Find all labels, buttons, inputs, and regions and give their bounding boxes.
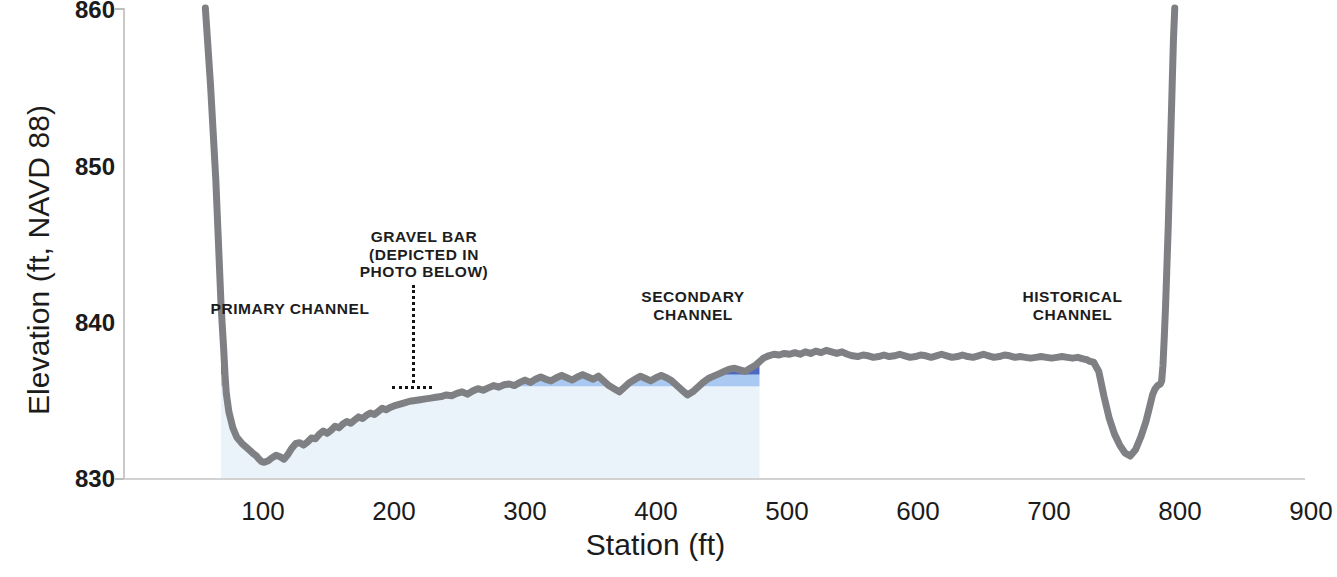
water-band-navy <box>221 354 759 361</box>
water-band-pale <box>221 386 759 478</box>
gravel-bar-leader-line <box>412 285 415 383</box>
annotation-secondary-channel: SECONDARY CHANNEL <box>588 288 798 323</box>
annotation-gravel-bar: GRAVEL BAR (DEPICTED IN PHOTO BELOW) <box>318 228 530 281</box>
annotation-historical-channel: HISTORICAL CHANNEL <box>970 288 1175 323</box>
gravel-bar-leader-tick <box>392 386 432 389</box>
water-band-mid <box>221 361 759 374</box>
water-fill-group <box>221 354 759 478</box>
annotation-primary-channel: PRIMARY CHANNEL <box>160 300 420 318</box>
